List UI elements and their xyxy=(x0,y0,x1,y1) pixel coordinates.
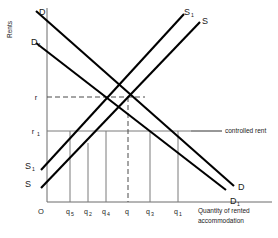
x-tick-q3-subscript: 3 xyxy=(151,211,154,217)
x-tick-q2: q xyxy=(84,208,88,216)
curve-label-S-top: S xyxy=(202,16,208,26)
curve-supply-S xyxy=(41,22,200,188)
curve-label-D1-top: D xyxy=(31,37,38,47)
curve-label-S1-bottom-subscript: 1 xyxy=(32,166,35,172)
curve-label-S1-top: S xyxy=(184,7,190,17)
origin-label: O xyxy=(38,207,44,216)
y-axis-title: Rents xyxy=(6,20,13,38)
x-tick-q5-subscript: 5 xyxy=(71,211,74,217)
curve-demand-D xyxy=(36,11,234,186)
x-axis-title-line2: accommodation xyxy=(198,217,244,224)
x-tick-q1-subscript: 1 xyxy=(179,211,182,217)
x-tick-q4: q xyxy=(102,208,106,216)
x-tick-q4-subscript: 4 xyxy=(107,211,110,217)
curve-label-S1-bottom: S xyxy=(25,161,31,171)
x-tick-q2-subscript: 2 xyxy=(89,211,92,217)
x-tick-q1: q xyxy=(174,208,178,216)
curve-supply-S1 xyxy=(41,14,184,170)
x-tick-q: q xyxy=(125,208,129,216)
y-label-r1: r xyxy=(32,127,35,136)
x-axis-title-line1: Quantity of rented xyxy=(198,207,250,215)
curve-demand-D1 xyxy=(36,43,226,190)
x-tick-q3: q xyxy=(146,208,150,216)
curve-label-S-bottom: S xyxy=(25,179,31,189)
y-label-r1-subscript: 1 xyxy=(37,131,40,137)
curve-label-D-bottom: D xyxy=(238,182,245,192)
curve-label-S1-top-subscript: 1 xyxy=(191,12,194,18)
curve-label-D1-bottom-subscript: 1 xyxy=(237,201,240,207)
supply-demand-figure: Rents r r 1 O q 5 q 2 q 4 q q 3 q 1 Quan… xyxy=(0,0,278,238)
curve-label-D1-top-subscript: 1 xyxy=(38,42,41,48)
y-label-r: r xyxy=(35,93,38,102)
diagram-canvas: Rents r r 1 O q 5 q 2 q 4 q q 3 q 1 Quan… xyxy=(0,0,278,238)
curve-label-D1-bottom: D xyxy=(230,196,237,206)
controlled-rent-annotation: controlled rent xyxy=(225,127,266,134)
curve-label-D-top: D xyxy=(39,7,46,17)
x-tick-q5: q xyxy=(66,208,70,216)
